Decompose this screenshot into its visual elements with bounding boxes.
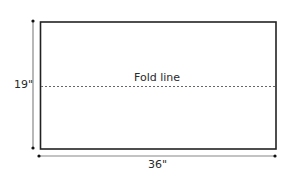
width-label: 36" — [148, 159, 167, 171]
height-label: 19" — [14, 79, 33, 91]
width-dimension-right-dot — [273, 154, 276, 157]
fold-line-label: Fold line — [134, 72, 180, 84]
diagram-canvas — [0, 0, 290, 174]
height-dimension-top-dot — [31, 19, 34, 22]
fabric-rectangle — [41, 22, 277, 149]
width-dimension-left-dot — [37, 154, 40, 157]
height-dimension-bottom-dot — [31, 146, 34, 149]
